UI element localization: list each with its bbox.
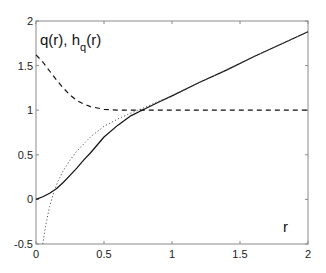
y-annotation: q(r), hq(r) xyxy=(40,31,101,53)
series-solid-line xyxy=(36,32,308,200)
plot-frame xyxy=(36,21,308,244)
y-tick-label: 0.5 xyxy=(18,149,33,161)
y-tick-label: -0.5 xyxy=(14,238,33,250)
x-tick-label: 1.5 xyxy=(232,248,247,260)
y-tick-label: 1 xyxy=(27,104,33,116)
x-tick-label: 0 xyxy=(33,248,39,260)
x-annotation: r xyxy=(283,218,288,235)
y-tick-label: 2 xyxy=(27,15,33,27)
x-tick-label: 0.5 xyxy=(96,248,111,260)
x-tick-label: 1 xyxy=(169,248,175,260)
axes: 00.511.52-0.500.511.52 xyxy=(14,15,311,260)
y-tick-label: 0 xyxy=(27,193,33,205)
series-dotted-line xyxy=(43,32,308,244)
chart: 00.511.52-0.500.511.52 q(r), hq(r) r xyxy=(0,0,326,273)
series-dashed-line xyxy=(36,55,308,110)
x-tick-label: 2 xyxy=(305,248,311,260)
y-tick-label: 1.5 xyxy=(18,60,33,72)
series-layer xyxy=(36,32,308,244)
